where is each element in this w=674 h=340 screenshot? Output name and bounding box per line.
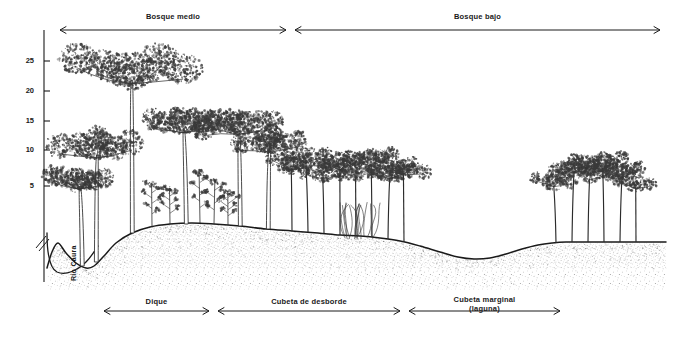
zone-label-text: Dique bbox=[146, 297, 168, 306]
y-tick-label-20: 20 bbox=[16, 86, 34, 95]
zone-label-dique: Dique bbox=[146, 298, 168, 307]
y-tick-label-25: 25 bbox=[16, 56, 34, 65]
tree-bosque-medio-2 bbox=[40, 163, 114, 266]
profile-illustration bbox=[0, 0, 674, 340]
y-tick-label-10: 10 bbox=[16, 145, 34, 154]
vegetation-layer bbox=[40, 42, 657, 266]
sapling-bosque-medio-3 bbox=[201, 174, 228, 224]
zone-label-bosque-medio: Bosque medio bbox=[146, 13, 200, 22]
arrow-bosque-bajo bbox=[295, 27, 660, 34]
tree-right-cluster-0 bbox=[529, 169, 579, 243]
tree-bosque-bajo-1 bbox=[279, 146, 333, 232]
tree-bosque-bajo-7 bbox=[374, 156, 432, 242]
y-tick-label-5: 5 bbox=[16, 181, 34, 190]
zone-label-text: Cubeta de desborde bbox=[271, 297, 347, 306]
sapling-bosque-medio-4 bbox=[216, 185, 241, 225]
arrow-cubeta-de-desborde bbox=[218, 308, 400, 315]
river-label: Río Caura bbox=[70, 245, 77, 281]
figure-canvas: 510152025 Bosque medio Bosque bajo Dique… bbox=[0, 0, 674, 340]
arrow-dique bbox=[104, 308, 209, 315]
y-tick-label-15: 15 bbox=[16, 116, 34, 125]
zone-label-text: Bosque bajo bbox=[454, 12, 501, 21]
zone-label-text: Bosque medio bbox=[146, 12, 200, 21]
zone-label-bosque-bajo: Bosque bajo bbox=[454, 13, 501, 22]
liana-thicket bbox=[340, 202, 380, 239]
tree-bosque-medio-0 bbox=[56, 42, 204, 233]
tree-right-cluster-5 bbox=[612, 173, 658, 242]
zone-sublabel-text: (laguna) bbox=[469, 304, 500, 313]
arrow-bosque-medio bbox=[60, 27, 286, 34]
zone-label-cubeta-marginal: Cubeta marginal (laguna) bbox=[454, 296, 516, 313]
zone-label-cubeta-de-desborde: Cubeta de desborde bbox=[271, 298, 347, 307]
sapling-bosque-medio-1 bbox=[158, 184, 180, 224]
